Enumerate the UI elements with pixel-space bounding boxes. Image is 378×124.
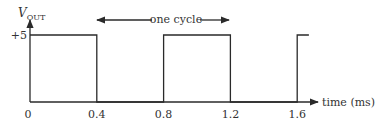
x-tick-label: 0.4 (88, 108, 106, 121)
y-axis-label: VOUT (18, 6, 46, 22)
x-tick-label: 1.6 (288, 108, 306, 121)
cycle-label: one cycle (150, 13, 202, 26)
x-tick-label: 0.8 (155, 108, 173, 121)
x-tick-label: 0 (25, 108, 32, 121)
y-level-label: +5 (11, 29, 27, 42)
x-tick-label: 1.2 (222, 108, 240, 121)
square-wave-diagram: VOUT +5 00.40.81.21.6 time (ms) one cycl… (0, 0, 378, 124)
waveform (30, 35, 309, 102)
x-axis-label: time (ms) (322, 96, 375, 109)
